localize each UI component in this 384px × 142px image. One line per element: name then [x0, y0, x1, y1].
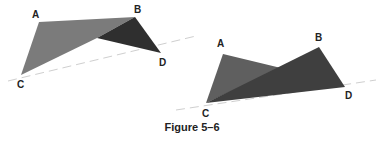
left-triangle-abc	[21, 17, 135, 75]
left-label-b: B	[134, 4, 141, 15]
right-label-c: C	[202, 108, 209, 119]
right-label-a: A	[217, 38, 224, 49]
left-label-d: D	[159, 57, 166, 68]
left-label-c: C	[17, 79, 24, 90]
right-label-b: B	[315, 32, 322, 43]
right-label-d: D	[345, 90, 352, 101]
figure-caption: Figure 5–6	[0, 121, 384, 133]
left-label-a: A	[32, 9, 39, 20]
right-diagram: A B C D	[176, 32, 376, 119]
left-diagram: A B C D	[8, 4, 196, 90]
